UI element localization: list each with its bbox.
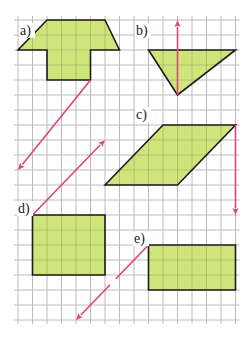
figure-label-d: d) xyxy=(18,201,30,217)
figure-label-a: a) xyxy=(20,23,31,39)
figure-label-e: e) xyxy=(134,231,145,247)
vector-d-line xyxy=(33,145,101,215)
figure-label-b: b) xyxy=(136,23,148,39)
grid-figure-diagram: a)b)c)d)e) xyxy=(0,0,252,339)
vector-e-line xyxy=(81,285,110,315)
vector-e-line xyxy=(116,245,149,279)
figure-label-c: c) xyxy=(136,107,147,123)
